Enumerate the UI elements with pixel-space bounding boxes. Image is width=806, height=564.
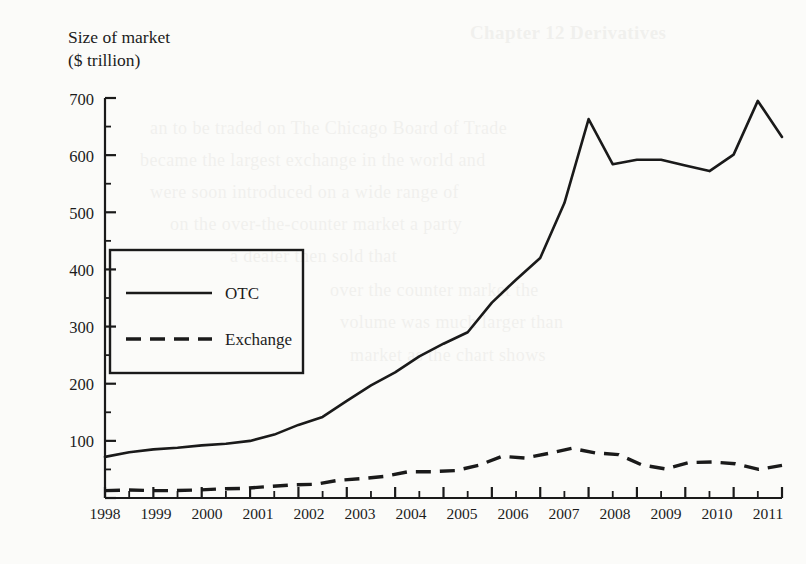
chart-canvas	[0, 0, 806, 564]
legend-box	[110, 250, 303, 373]
series-line-otc	[105, 101, 782, 457]
axes	[105, 98, 782, 498]
line-chart: Size of market ($ trillion) 700 600 500 …	[0, 0, 806, 564]
series-line-exchange	[105, 448, 782, 490]
